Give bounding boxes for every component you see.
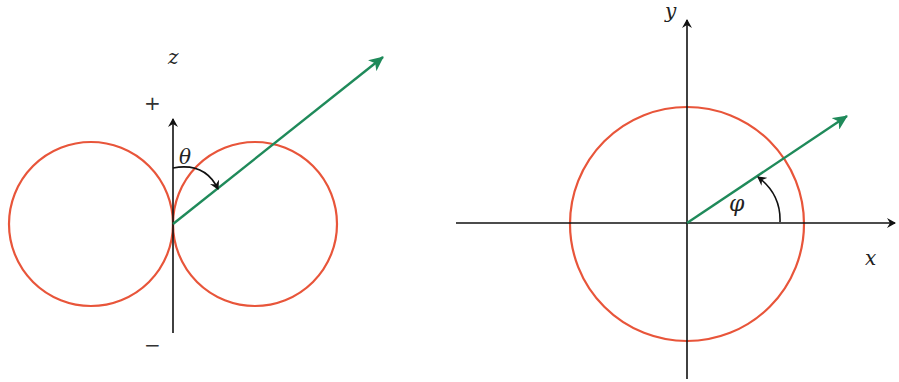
phi-label: φ <box>729 191 745 216</box>
theta-label: θ <box>179 145 191 169</box>
theta-angle-arc <box>173 167 218 189</box>
phi-angle-arc <box>758 177 780 222</box>
x-axis-label: x <box>865 246 876 270</box>
right-lobe <box>173 142 337 306</box>
y-axis-label: y <box>664 0 677 23</box>
plus-sign: + <box>144 91 161 115</box>
left-lobe <box>9 142 173 306</box>
z-axis-label: z <box>167 45 179 69</box>
radiation-pattern-diagram: z + − θ x y φ <box>0 0 899 382</box>
azimuthal-pattern-panel: x y φ <box>456 0 895 379</box>
direction-vector <box>687 116 847 223</box>
minus-sign: − <box>144 333 161 357</box>
direction-vector <box>173 57 383 224</box>
elevation-pattern-panel: z + − θ <box>9 45 383 357</box>
